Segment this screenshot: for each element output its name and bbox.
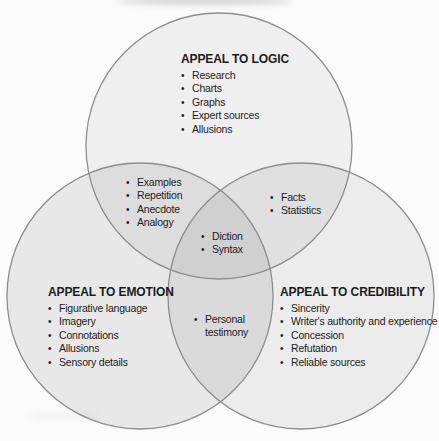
list-item-text: Graphs — [192, 96, 225, 109]
list-item: •Refutation — [280, 342, 437, 355]
region-center-overlap: •Diction•Syntax — [201, 230, 243, 257]
bullet-icon: • — [181, 69, 192, 82]
list-item: •Charts — [181, 82, 289, 95]
list-item-text: Repetition — [137, 189, 182, 202]
bullet-icon: • — [48, 329, 59, 342]
region-emotion-credibility-overlap: •Personal testimony — [194, 313, 267, 340]
list-item-text: Anecdote — [137, 203, 180, 216]
list-item: •Statistics — [270, 204, 321, 217]
list-item-text: Charts — [192, 82, 222, 95]
list-item-text: Connotations — [59, 329, 118, 342]
list-item-text: Writer's authority and experience — [291, 315, 437, 328]
bullet-icon: • — [280, 302, 291, 315]
region-items-logic: •Research•Charts•Graphs•Expert sources•A… — [181, 69, 289, 136]
bullet-icon: • — [280, 329, 291, 342]
region-items-logic-emotion: •Examples•Repetition•Anecdote•Analogy — [126, 176, 182, 230]
region-emotion: APPEAL TO EMOTION •Figurative language•I… — [48, 285, 174, 369]
list-item-text: Imagery — [59, 315, 96, 328]
list-item-text: Sensory details — [59, 356, 128, 369]
bullet-icon: • — [48, 342, 59, 355]
list-item-text: Research — [192, 69, 235, 82]
list-item: •Personal testimony — [194, 313, 267, 340]
list-item-text: Expert sources — [192, 109, 259, 122]
bullet-icon: • — [194, 313, 205, 326]
list-item: •Analogy — [126, 216, 182, 229]
list-item: •Reliable sources — [280, 356, 437, 369]
list-item: •Diction — [201, 230, 243, 243]
list-item: •Expert sources — [181, 109, 289, 122]
bullet-icon: • — [126, 203, 137, 216]
bullet-icon: • — [280, 315, 291, 328]
bullet-icon: • — [48, 356, 59, 369]
list-item-text: Refutation — [291, 342, 337, 355]
region-items-emotion-credibility: •Personal testimony — [194, 313, 267, 340]
bullet-icon: • — [126, 176, 137, 189]
list-item: •Writer's authority and experience — [280, 315, 437, 328]
list-item-text: Sincerity — [291, 302, 329, 315]
list-item: •Facts — [270, 191, 321, 204]
list-item: •Connotations — [48, 329, 174, 342]
list-item: •Examples — [126, 176, 182, 189]
list-item: •Imagery — [48, 315, 174, 328]
region-credibility: APPEAL TO CREDIBILITY •Sincerity•Writer'… — [280, 285, 437, 369]
bullet-icon: • — [280, 342, 291, 355]
bullet-icon: • — [270, 204, 281, 217]
bullet-icon: • — [181, 82, 192, 95]
bullet-icon: • — [181, 109, 192, 122]
list-item: •Allusions — [48, 342, 174, 355]
list-item: •Allusions — [181, 123, 289, 136]
bullet-icon: • — [201, 243, 212, 256]
bullet-icon: • — [126, 216, 137, 229]
venn-diagram: APPEAL TO LOGIC •Research•Charts•Graphs•… — [0, 0, 439, 441]
region-logic-credibility-overlap: •Facts•Statistics — [270, 191, 321, 218]
region-title-credibility: APPEAL TO CREDIBILITY — [280, 285, 437, 299]
list-item-text: Diction — [212, 230, 243, 243]
bullet-icon: • — [126, 189, 137, 202]
region-title-logic: APPEAL TO LOGIC — [181, 52, 289, 66]
list-item: •Syntax — [201, 243, 243, 256]
bullet-icon: • — [181, 96, 192, 109]
list-item-text: Personal testimony — [205, 313, 267, 340]
list-item-text: Allusions — [192, 123, 232, 136]
region-items-logic-credibility: •Facts•Statistics — [270, 191, 321, 218]
list-item: •Figurative language — [48, 302, 174, 315]
list-item: •Sincerity — [280, 302, 437, 315]
bullet-icon: • — [48, 302, 59, 315]
list-item: •Repetition — [126, 189, 182, 202]
list-item-text: Reliable sources — [291, 356, 365, 369]
list-item: •Sensory details — [48, 356, 174, 369]
list-item-text: Statistics — [281, 204, 321, 217]
list-item: •Graphs — [181, 96, 289, 109]
region-items-emotion: •Figurative language•Imagery•Connotation… — [48, 302, 174, 369]
region-logic: APPEAL TO LOGIC •Research•Charts•Graphs•… — [181, 52, 289, 136]
list-item-text: Analogy — [137, 216, 174, 229]
list-item-text: Concession — [291, 329, 344, 342]
bullet-icon: • — [280, 356, 291, 369]
bullet-icon: • — [270, 191, 281, 204]
bullet-icon: • — [201, 230, 212, 243]
bullet-icon: • — [181, 123, 192, 136]
list-item-text: Syntax — [212, 243, 243, 256]
list-item-text: Allusions — [59, 342, 99, 355]
region-items-center: •Diction•Syntax — [201, 230, 243, 257]
list-item-text: Examples — [137, 176, 182, 189]
list-item-text: Facts — [281, 191, 306, 204]
list-item: •Anecdote — [126, 203, 182, 216]
region-title-emotion: APPEAL TO EMOTION — [48, 285, 174, 299]
region-items-credibility: •Sincerity•Writer's authority and experi… — [280, 302, 437, 369]
bullet-icon: • — [48, 315, 59, 328]
list-item-text: Figurative language — [59, 302, 147, 315]
list-item: •Research — [181, 69, 289, 82]
list-item: •Concession — [280, 329, 437, 342]
region-logic-emotion-overlap: •Examples•Repetition•Anecdote•Analogy — [126, 176, 182, 230]
